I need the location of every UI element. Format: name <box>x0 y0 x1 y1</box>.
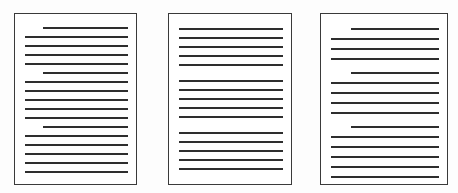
text-line <box>179 150 283 152</box>
text-line <box>25 90 128 92</box>
text-line <box>179 107 283 109</box>
text-line-indented <box>351 28 439 30</box>
text-line <box>331 58 439 60</box>
text-line <box>179 159 283 161</box>
text-line <box>25 135 128 137</box>
document-page-3[interactable] <box>320 13 448 185</box>
text-line <box>179 46 283 48</box>
text-line <box>179 89 283 91</box>
text-line <box>25 108 128 110</box>
text-line-indented <box>43 126 128 128</box>
text-line <box>179 55 283 57</box>
text-line <box>331 92 439 94</box>
text-line <box>331 156 439 158</box>
text-line <box>179 141 283 143</box>
document-gallery <box>0 0 458 193</box>
text-line <box>331 102 439 104</box>
text-line <box>25 117 128 119</box>
text-line <box>25 171 128 173</box>
text-line-indented <box>351 126 439 128</box>
text-line <box>25 162 128 164</box>
text-line-indented <box>43 72 128 74</box>
text-line <box>331 48 439 50</box>
text-line <box>25 63 128 65</box>
text-line <box>331 176 439 178</box>
document-body <box>15 14 136 184</box>
text-line <box>179 37 283 39</box>
text-line <box>25 45 128 47</box>
text-line <box>331 112 439 114</box>
text-line-indented <box>43 27 128 29</box>
document-page-1[interactable] <box>14 13 137 185</box>
document-body <box>169 14 291 184</box>
text-line <box>25 81 128 83</box>
text-line-indented <box>351 72 439 74</box>
text-line <box>331 38 439 40</box>
text-line <box>25 144 128 146</box>
text-line <box>331 146 439 148</box>
text-line <box>179 116 283 118</box>
text-line <box>331 136 439 138</box>
text-line <box>179 28 283 30</box>
text-line <box>25 153 128 155</box>
text-line <box>179 98 283 100</box>
text-line <box>331 82 439 84</box>
text-line <box>179 132 283 134</box>
text-line <box>179 64 283 66</box>
text-line <box>25 54 128 56</box>
text-line <box>25 36 128 38</box>
document-body <box>321 14 447 184</box>
text-line <box>25 99 128 101</box>
text-line <box>179 80 283 82</box>
text-line <box>331 166 439 168</box>
document-page-2[interactable] <box>168 13 292 185</box>
text-line <box>179 168 283 170</box>
